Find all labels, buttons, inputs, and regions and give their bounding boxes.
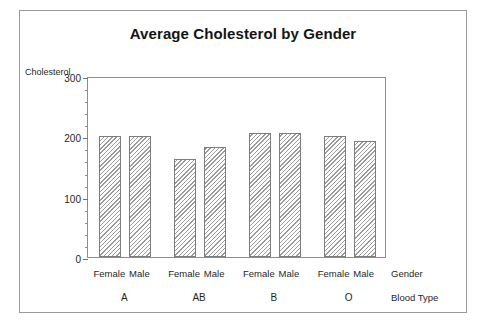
y-axis-tick-label: 200	[64, 133, 81, 144]
bar	[174, 159, 196, 257]
y-axis-tick-label: 0	[75, 254, 81, 265]
bar	[354, 141, 376, 257]
gender-tick-label: Male	[204, 268, 225, 279]
bloodtype-axis-name: Blood Type	[391, 292, 438, 303]
bar-series	[88, 78, 385, 257]
y-axis-major-tick	[83, 259, 88, 260]
gender-tick-label: Female	[94, 268, 126, 279]
gender-tick-label: Female	[168, 268, 200, 279]
bar	[324, 136, 346, 257]
chart-card: Average Cholesterol by Gender Cholestero…	[19, 10, 467, 313]
bar	[249, 133, 271, 257]
gender-tick-label: Male	[129, 268, 150, 279]
y-axis-tick-label: 300	[64, 73, 81, 84]
bar	[99, 136, 121, 257]
bloodtype-tick-label: A	[121, 292, 128, 303]
bar	[129, 136, 151, 257]
plot-area: 0100200300	[87, 77, 386, 258]
gender-tick-label: Female	[318, 268, 350, 279]
bar	[204, 147, 226, 257]
gender-tick-label: Female	[243, 268, 275, 279]
y-axis-tick-label: 100	[64, 193, 81, 204]
bloodtype-tick-label: B	[271, 292, 278, 303]
bloodtype-tick-label: O	[345, 292, 353, 303]
gender-tick-label: Male	[353, 268, 374, 279]
gender-tick-label: Male	[279, 268, 300, 279]
gender-axis-name: Gender	[391, 268, 423, 279]
chart-title: Average Cholesterol by Gender	[20, 25, 466, 42]
bar	[279, 133, 301, 257]
bloodtype-tick-label: AB	[192, 292, 205, 303]
